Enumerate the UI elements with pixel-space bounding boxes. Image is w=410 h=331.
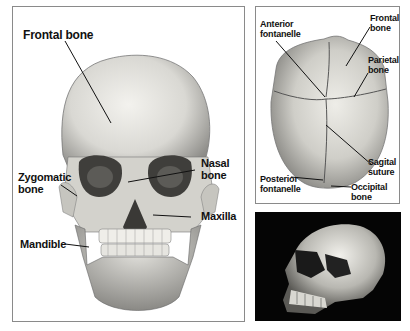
label-posterior-fontanelle: Posterior fontanelle [260, 174, 301, 194]
label-sagital-suture-line1: Sagital [368, 157, 396, 167]
label-parietal-bone-line1: Parietal [368, 55, 399, 65]
label-frontal-bone: Frontal bone [23, 29, 93, 41]
label-occipital-bone: Occipital bone [351, 182, 387, 202]
label-occipital-bone-line2: bone [351, 192, 387, 202]
label-frontal-bone-top-line2: bone [370, 23, 399, 33]
label-frontal-bone-top: Frontal bone [370, 13, 399, 33]
label-nasal-bone-line2: bone [201, 169, 229, 181]
label-posterior-fontanelle-line2: fontanelle [260, 184, 301, 194]
label-anterior-fontanelle-line2: fontanelle [260, 29, 301, 39]
label-parietal-bone: Parietal bone [368, 55, 399, 75]
label-zygomatic-bone: Zygomatic bone [18, 171, 71, 195]
label-sagital-suture-line2: suture [368, 167, 396, 177]
front-view-panel: Frontal bone Nasal bone Zygomatic bone M… [12, 6, 245, 322]
label-zygomatic-bone-line2: bone [18, 183, 71, 195]
label-nasal-bone-line1: Nasal [201, 157, 229, 169]
label-frontal-bone-top-line1: Frontal [370, 13, 399, 23]
label-mandible: Mandible [20, 238, 66, 250]
label-maxilla: Maxilla [201, 210, 236, 222]
label-zygomatic-bone-line1: Zygomatic [18, 171, 71, 183]
label-parietal-bone-line2: bone [368, 65, 399, 75]
label-anterior-fontanelle: Anterior fontanelle [260, 19, 301, 39]
label-posterior-fontanelle-line1: Posterior [260, 174, 301, 184]
skull-photo [255, 212, 401, 321]
skull-photo-panel [255, 212, 401, 321]
label-occipital-bone-line1: Occipital [351, 182, 387, 192]
label-nasal-bone: Nasal bone [201, 157, 229, 181]
label-sagital-suture: Sagital suture [368, 157, 396, 177]
label-anterior-fontanelle-line1: Anterior [260, 19, 301, 29]
top-view-panel: Anterior fontanelle Frontal bone Parieta… [255, 6, 400, 204]
